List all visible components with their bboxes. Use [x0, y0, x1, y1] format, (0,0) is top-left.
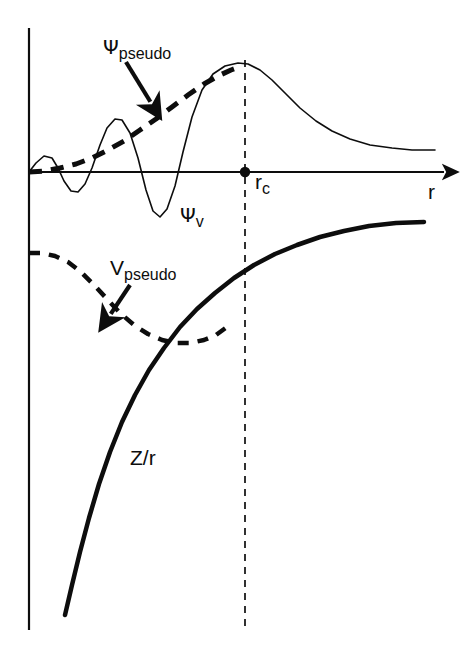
label-v-pseudo: Vpseudo — [110, 257, 177, 278]
core-radius-marker-dot — [240, 167, 250, 177]
label-r-axis: r — [428, 181, 435, 202]
label-r-axis-symbol: r — [428, 180, 435, 203]
label-psi-pseudo-subscript: pseudo — [119, 45, 172, 62]
figure-canvas — [0, 0, 473, 647]
curve-psi-v — [29, 63, 435, 217]
label-psi-v-symbol: Ψ — [180, 203, 196, 227]
label-z-over-r: Z/r — [130, 447, 156, 468]
psi-pseudo-annotation-arrow — [126, 62, 150, 102]
label-psi-v-subscript: v — [196, 213, 204, 230]
label-psi-pseudo: Ψpseudo — [103, 36, 171, 57]
pseudopotential-figure: Ψpseudo Ψv Vpseudo rc r Z/r — [0, 0, 473, 647]
label-v-pseudo-subscript: pseudo — [124, 266, 177, 283]
label-psi-v: Ψv — [180, 204, 204, 225]
label-psi-pseudo-symbol: Ψ — [103, 35, 119, 59]
curve-psi-pseudo — [29, 66, 242, 172]
label-v-pseudo-symbol: V — [110, 256, 124, 279]
label-rc-symbol: r — [255, 170, 262, 193]
label-zr-symbol: Z/r — [130, 446, 156, 469]
label-rc-subscript: c — [262, 180, 270, 197]
label-core-radius: rc — [255, 171, 270, 192]
v-pseudo-annotation-arrow — [111, 285, 130, 314]
